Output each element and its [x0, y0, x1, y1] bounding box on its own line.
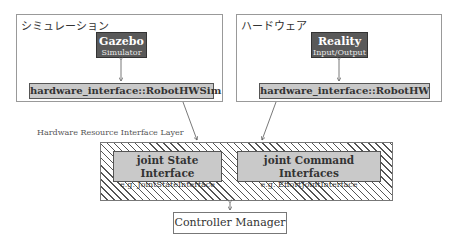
joint-state-interface-example: e.g. JointStateInterface: [114, 180, 221, 189]
gazebo-subtitle: Simulator: [97, 48, 146, 57]
reality-subtitle: Input/Output: [312, 48, 367, 57]
simulation-group-label: シミュレーション: [21, 17, 109, 33]
robothw-box: hardware_interface::RobotHW: [259, 83, 430, 99]
joint-command-interface-example: e.g. EffortJointInterface: [238, 180, 380, 189]
controller-manager-label: Controller Manager: [175, 216, 286, 229]
layer-label: Hardware Resource Interface Layer: [37, 128, 184, 137]
joint-state-interface-box: joint State Interface e.g. JointStateInt…: [113, 151, 222, 182]
robothw-label: hardware_interface::RobotHW: [260, 85, 430, 96]
controller-manager-box: Controller Manager: [173, 212, 287, 234]
robothwsim-label: hardware_interface::RobotHWSim: [30, 85, 221, 96]
hw-to-layer-arrow: [262, 102, 276, 140]
gazebo-title: Gazebo: [97, 35, 146, 48]
gazebo-box: Gazebo Simulator: [96, 32, 147, 58]
reality-title: Reality: [312, 35, 367, 48]
robothwsim-box: hardware_interface::RobotHWSim: [29, 83, 214, 99]
joint-command-interface-box: joint Command Interfaces e.g. EffortJoin…: [237, 151, 381, 182]
hardware-group-label: ハードウェア: [241, 17, 307, 33]
joint-command-interface-title: joint Command Interfaces: [238, 154, 380, 180]
reality-box: Reality Input/Output: [311, 32, 368, 58]
sim-to-layer-arrow: [183, 102, 197, 140]
joint-state-interface-title: joint State Interface: [114, 154, 221, 180]
